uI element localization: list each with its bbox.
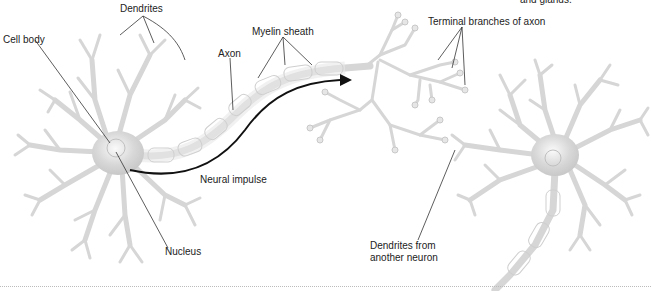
axon-terminals: [310, 15, 465, 150]
right-axon: [495, 170, 560, 290]
label-axon: Axon: [218, 48, 241, 60]
neuron-diagram: and glands. Dendrites Cell body Axon Mye…: [0, 0, 651, 291]
label-cell-body: Cell body: [3, 34, 45, 46]
label-terminal-branches: Terminal branches of axon: [428, 16, 545, 28]
label-neural-impulse: Neural impulse: [200, 174, 267, 186]
label-myelin-sheath: Myelin sheath: [252, 26, 314, 38]
caption-fragment: and glands.: [520, 0, 572, 6]
label-dendrites-from-line1: Dendrites from: [370, 240, 436, 252]
leader-lines: [35, 16, 465, 248]
bottom-dotted-divider: [0, 286, 651, 287]
left-cell-body: [92, 131, 144, 175]
label-dendrites-from-line2: another neuron: [370, 252, 438, 264]
right-cell-body: [531, 134, 579, 176]
neuron-illustration: [0, 0, 651, 291]
label-dendrites: Dendrites: [120, 3, 163, 15]
label-nucleus: Nucleus: [165, 246, 201, 258]
